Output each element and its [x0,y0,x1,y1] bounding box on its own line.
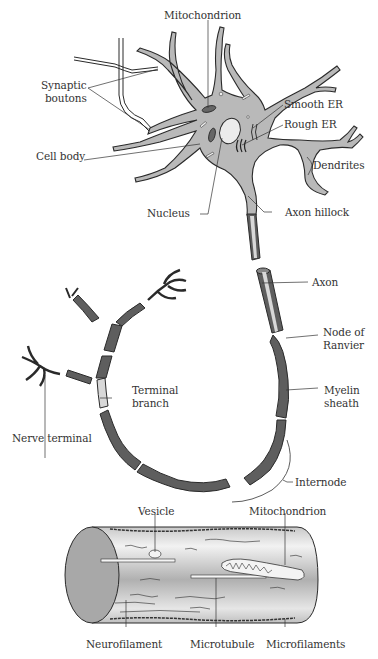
label-cell-body: Cell body [36,150,85,162]
label-node-of-ranvier-2: Ranvier [323,339,364,351]
label-internode: Internode [295,476,346,488]
terminal-branches [22,270,186,386]
label-dendrites: Dendrites [313,159,364,171]
label-nucleus: Nucleus [147,207,190,219]
label-terminal-branch-1: Terminal [132,384,178,396]
label-nerve-terminal: Nerve terminal [12,432,92,444]
label-smooth-er: Smooth ER [284,98,343,110]
label-synaptic-boutons-1: Synaptic [41,79,87,91]
label-node-of-ranvier-1: Node of [323,326,364,338]
label-microfilaments: Microfilaments [266,638,345,650]
label-myelin-sheath-1: Myelin [324,384,360,396]
label-axon-hillock: Axon hillock [285,206,349,218]
label-mitochondrion-top: Mitochondrion [164,9,241,21]
label-axon: Axon [312,276,338,288]
label-microtubule: Microtubule [190,638,254,650]
label-terminal-branch-2: branch [132,397,169,409]
microtubule-rod-1 [101,559,175,562]
label-neurofilament: Neurofilament [86,638,162,650]
axon-shape [97,214,289,492]
label-synaptic-boutons-2: boutons [45,92,87,104]
axon-cross-section [65,527,318,623]
label-myelin-sheath-2: sheath [324,397,359,409]
label-rough-er: Rough ER [284,118,337,130]
label-vesicle: Vesicle [138,505,174,517]
label-mitochondrion-bottom: Mitochondrion [249,505,326,517]
